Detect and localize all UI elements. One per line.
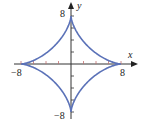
x-min-label: −8 — [11, 67, 22, 78]
x-max-label: 8 — [120, 67, 125, 78]
y-axis-label: y — [76, 0, 82, 11]
astroid-plot: x y −8 8 8 −8 — [0, 0, 143, 129]
y-max-label: 8 — [60, 8, 65, 19]
y-axis-arrow-icon — [68, 2, 74, 9]
x-axis-arrow-icon — [131, 61, 138, 67]
x-axis-label: x — [127, 49, 133, 60]
y-min-label: −8 — [54, 110, 65, 121]
